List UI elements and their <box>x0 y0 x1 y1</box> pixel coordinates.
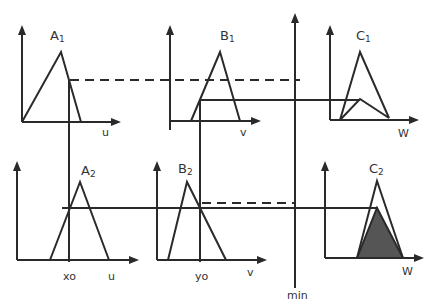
label-b1: B1 <box>220 28 235 44</box>
plot-c2: C2 W <box>325 161 419 278</box>
label-c2: C2 <box>369 161 384 177</box>
plot-a2: A2 u xo <box>17 163 134 283</box>
min-operator-line: min <box>287 18 308 302</box>
label-a2: A2 <box>81 163 96 179</box>
label-c1: C1 <box>356 28 371 44</box>
membership-b2 <box>168 182 226 260</box>
min-label: min <box>287 289 308 302</box>
membership-a2 <box>50 182 109 260</box>
label-b2: B2 <box>178 161 193 177</box>
label-a1: A1 <box>50 28 65 44</box>
axis-label-w: W <box>398 127 409 140</box>
axis-label-u: u <box>108 270 115 283</box>
plot-b2: B2 v yo <box>157 161 262 283</box>
plot-c1: C1 W <box>330 28 414 140</box>
input-xo-label: xo <box>63 270 76 283</box>
membership-b1 <box>191 52 240 121</box>
axis-label-v: v <box>240 126 247 139</box>
axis-label-u: u <box>102 126 109 139</box>
membership-a1 <box>22 52 81 122</box>
input-yo-label: yo <box>195 270 209 283</box>
axis-label-w: W <box>402 265 413 278</box>
fuzzy-inference-diagram: min A1 u B1 v C1 W A2 u xo <box>0 0 433 304</box>
axis-label-v: v <box>247 266 254 279</box>
plot-b1: B1 v <box>170 28 256 139</box>
membership-c1 <box>340 52 389 120</box>
